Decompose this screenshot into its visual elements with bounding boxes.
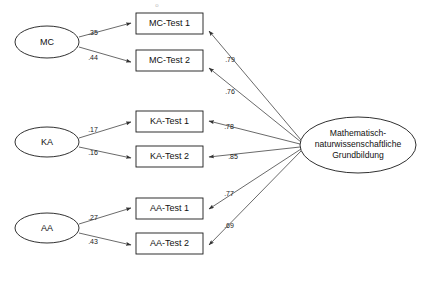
loading-path-group — [209, 31, 301, 245]
predictor-coefficient-group: .35 .44 .17 .16 .27 .43 — [88, 29, 98, 245]
latent-label-line-1: Mathematisch- — [330, 128, 386, 138]
coefficient-latent-mc1: .79 — [225, 56, 235, 63]
path-latent-to-mc2 — [209, 68, 301, 142]
label-ka: KA — [41, 137, 53, 147]
indicator-node-ka1[interactable]: KA-Test 1 — [136, 111, 203, 132]
indicator-node-mc2[interactable]: MC-Test 2 — [136, 50, 203, 71]
path-latent-to-mc1 — [209, 31, 301, 140]
label-mc-test-2: MC-Test 2 — [149, 55, 190, 65]
coefficient-mc-mc2: .44 — [88, 54, 98, 61]
indicator-node-aa1[interactable]: AA-Test 1 — [136, 198, 203, 219]
label-mc-test-1: MC-Test 1 — [149, 18, 190, 28]
latent-label-line-3: Grundbildung — [332, 150, 384, 160]
label-ka-test-2: KA-Test 2 — [150, 151, 189, 161]
coefficient-latent-mc2: .76 — [225, 88, 235, 95]
coefficient-latent-ka1: .78 — [224, 123, 234, 130]
label-ka-test-1: KA-Test 1 — [150, 116, 189, 126]
coefficient-latent-aa2: .69 — [224, 222, 234, 229]
scan-artifact-mark: o — [155, 2, 159, 8]
predictor-node-ka[interactable]: KA — [15, 127, 79, 157]
coefficient-latent-ka2: .85 — [228, 153, 238, 160]
label-aa: AA — [41, 223, 53, 233]
coefficient-aa-aa2: .43 — [88, 238, 98, 245]
path-ka-to-ka1 — [79, 122, 131, 138]
coefficient-ka-ka1: .17 — [88, 126, 98, 133]
path-latent-to-aa2 — [209, 151, 301, 245]
latent-node-grundbildung[interactable]: Mathematisch- naturwissenschaftliche Gru… — [300, 117, 416, 173]
label-mc: MC — [40, 37, 54, 47]
indicator-node-mc1[interactable]: MC-Test 1 — [136, 13, 203, 34]
path-latent-to-aa1 — [209, 149, 301, 209]
label-aa-test-1: AA-Test 1 — [150, 203, 189, 213]
coefficient-aa-aa1: .27 — [88, 214, 98, 221]
latent-label-line-2: naturwissenschaftliche — [315, 139, 402, 149]
indicator-node-aa2[interactable]: AA-Test 2 — [136, 233, 203, 254]
path-mc-to-mc2 — [79, 47, 131, 62]
label-aa-test-2: AA-Test 2 — [150, 238, 189, 248]
path-aa-to-aa2 — [79, 233, 131, 245]
path-aa-to-aa1 — [79, 208, 131, 224]
coefficient-mc-mc1: .35 — [88, 29, 98, 36]
path-ka-to-ka2 — [79, 147, 131, 158]
coefficient-latent-aa1: .77 — [224, 190, 234, 197]
path-latent-to-ka2 — [209, 147, 300, 157]
path-mc-to-mc1 — [79, 23, 131, 37]
predictor-node-mc[interactable]: MC — [15, 26, 79, 58]
sem-path-diagram: o MC KA AA — [0, 0, 422, 282]
predictor-node-aa[interactable]: AA — [15, 213, 79, 243]
predictor-path-group — [79, 23, 131, 245]
diagram-canvas: o MC KA AA — [0, 0, 422, 282]
path-latent-to-ka1 — [209, 121, 300, 144]
indicator-node-ka2[interactable]: KA-Test 2 — [136, 146, 203, 167]
coefficient-ka-ka2: .16 — [88, 149, 98, 156]
